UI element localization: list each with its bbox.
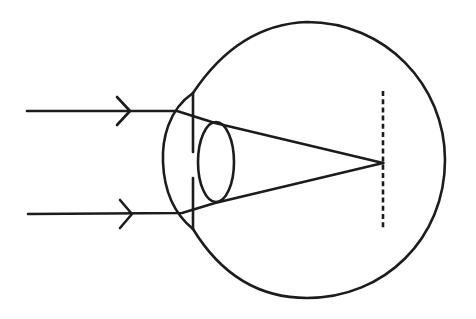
- eye-diagram-canvas: [0, 0, 476, 319]
- eye-diagram: Eye ray diagram: parallel rays focused i…: [0, 0, 476, 319]
- eyeball-outline: [193, 22, 445, 298]
- upper-ray-path: [27, 111, 383, 163]
- focal-point: [381, 161, 384, 164]
- lens: [198, 122, 234, 202]
- lower-ray-path: [28, 163, 383, 214]
